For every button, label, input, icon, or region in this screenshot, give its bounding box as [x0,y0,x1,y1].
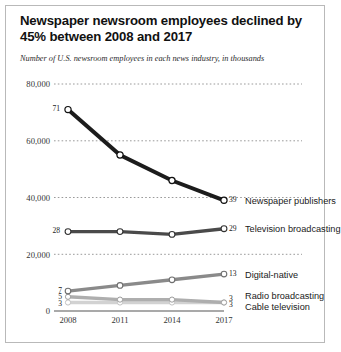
value-label-newspaper-start: 71 [34,104,60,113]
x-tick-2011: 2011 [100,315,140,325]
series-line-television-broadcasting [65,226,227,238]
value-label-television-end: 29 [229,224,237,233]
figure-frame: Newspaper newsroom employees declined by… [5,5,325,343]
y-tick-40000: 40,000 [6,193,50,203]
chart-plot-area: 80,000 60,000 40,000 20,000 0 2008 2011 … [6,6,326,344]
y-tick-0: 0 [6,306,50,316]
series-label-cable-television: Cable television [245,302,310,312]
value-label-cable-end: 3 [229,300,233,309]
x-tick-2014: 2014 [152,315,192,325]
value-label-digital-end: 13 [229,269,237,278]
value-label-television-start: 28 [34,226,60,235]
series-line-digital-native [65,271,227,294]
y-tick-80000: 80,000 [6,79,50,89]
series-line-newspaper-publishers [65,107,227,204]
x-tick-2008: 2008 [48,315,88,325]
value-label-cable-start: 3 [36,299,62,308]
y-tick-20000: 20,000 [6,250,50,260]
series-label-digital-native: Digital-native [245,270,298,280]
value-label-newspaper-end: 39 [229,195,237,204]
series-label-radio-broadcasting: Radio broadcasting [245,291,324,301]
series-label-television-broadcasting: Television broadcasting [245,224,341,234]
y-tick-60000: 60,000 [6,136,50,146]
x-tick-2017: 2017 [204,315,244,325]
series-label-newspaper-publishers: Newspaper publishers [245,196,336,206]
